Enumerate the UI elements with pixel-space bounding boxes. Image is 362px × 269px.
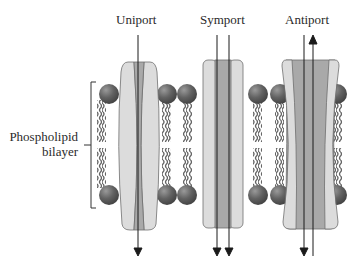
symport-arrow-down-icon-1	[213, 248, 221, 256]
symport-protein	[203, 60, 243, 228]
bilayer-bracket	[84, 82, 96, 208]
uniport-protein	[119, 62, 160, 230]
antiport-protein	[282, 60, 339, 229]
uniport-arrow-down-icon	[134, 248, 142, 256]
antiport-arrow-up-icon	[309, 35, 317, 44]
symport-arrow-down-icon-2	[225, 248, 233, 256]
membrane-transport-diagram	[0, 0, 362, 269]
antiport-arrow-down-icon	[300, 248, 308, 256]
